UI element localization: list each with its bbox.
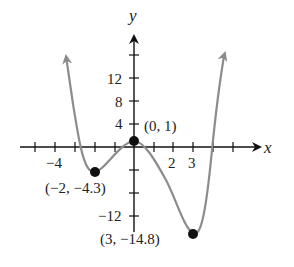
y-tick-label-4: 4: [115, 116, 123, 132]
annotation-local-min-left: (−2, −4.3): [45, 180, 106, 197]
annotation-local-min-right: (3, −14.8): [100, 231, 160, 248]
curve-right-arrow-icon: [224, 53, 225, 56]
annotation-local-max: (0, 1): [144, 118, 177, 135]
point-local-min-left: [90, 167, 100, 177]
point-local-max: [129, 136, 139, 146]
y-tick-label-8: 8: [115, 94, 123, 110]
x-tick-label-neg4: −4: [46, 155, 62, 171]
polynomial-graph: x −4 2 3 y 12 8 4 −12 (−2, −4.3) (0, 1) …: [0, 0, 294, 267]
y-tick-label-neg12: −12: [98, 208, 121, 224]
x-axis: x −4 2 3: [20, 138, 272, 171]
x-tick-label-2: 2: [168, 155, 176, 171]
curve-left-arrow-icon: [66, 56, 73, 104]
y-tick-label-12: 12: [107, 71, 122, 87]
polynomial-curve: [73, 56, 224, 234]
y-axis-label: y: [127, 6, 137, 25]
x-tick-label-3: 3: [188, 155, 196, 171]
y-axis: y 12 8 4 −12: [98, 6, 139, 232]
point-local-min-right: [188, 229, 198, 239]
x-axis-label: x: [263, 138, 272, 157]
